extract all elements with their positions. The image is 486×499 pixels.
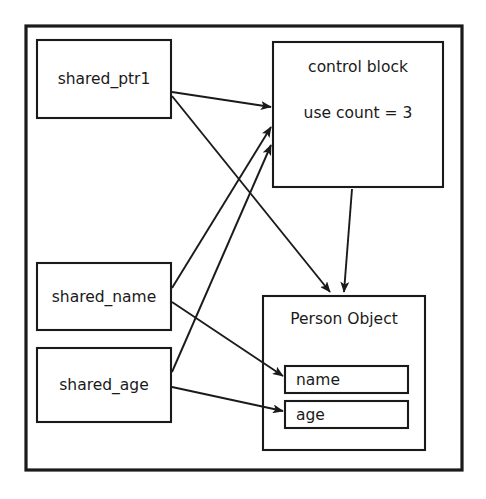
field-box-age[interactable] <box>285 401 408 428</box>
node-box-shared-name[interactable] <box>37 263 171 330</box>
diagram-vector-layer <box>0 0 486 499</box>
node-box-shared-age[interactable] <box>37 348 171 422</box>
field-box-name[interactable] <box>285 366 408 393</box>
diagram-canvas: shared_ptr1 shared_name shared_age contr… <box>0 0 486 499</box>
node-box-shared-ptr1[interactable] <box>37 40 171 118</box>
node-box-control-block[interactable] <box>273 42 443 187</box>
